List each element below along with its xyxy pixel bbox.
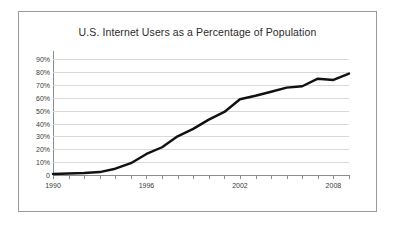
x-tick-mark — [193, 176, 194, 179]
x-tick-label: 2002 — [232, 182, 248, 189]
x-tick-mark — [115, 176, 116, 179]
y-tick-label: 40% — [36, 120, 50, 127]
line-series — [53, 53, 349, 175]
y-tick-label: 50% — [36, 107, 50, 114]
x-tick-mark — [209, 176, 210, 179]
x-tick-label: 1996 — [139, 182, 155, 189]
x-tick-label: 2008 — [326, 182, 342, 189]
x-tick-mark — [256, 176, 257, 179]
x-tick-mark — [302, 176, 303, 179]
chart-title: U.S. Internet Users as a Percentage of P… — [19, 26, 376, 38]
y-tick-label: 30% — [36, 133, 50, 140]
x-axis-line — [53, 175, 350, 176]
x-tick-mark — [333, 176, 334, 179]
y-tick-label: 60% — [36, 94, 50, 101]
x-tick-mark — [287, 176, 288, 179]
x-tick-mark — [84, 176, 85, 179]
plot-area — [53, 53, 349, 175]
x-tick-mark — [69, 176, 70, 179]
x-tick-mark — [53, 176, 54, 179]
y-tick-label: 80% — [36, 69, 50, 76]
y-tick-label: 10% — [36, 159, 50, 166]
x-tick-mark — [178, 176, 179, 179]
x-tick-mark — [100, 176, 101, 179]
x-tick-mark — [146, 176, 147, 179]
x-tick-mark — [131, 176, 132, 179]
x-tick-mark — [318, 176, 319, 179]
y-tick-label: 70% — [36, 82, 50, 89]
x-tick-mark — [349, 176, 350, 179]
x-tick-mark — [240, 176, 241, 179]
x-tick-mark — [224, 176, 225, 179]
y-tick-label: 0 — [46, 172, 50, 179]
y-tick-label: 90% — [36, 56, 50, 63]
chart-figure: U.S. Internet Users as a Percentage of P… — [18, 11, 377, 212]
x-tick-mark — [271, 176, 272, 179]
y-axis-tick-labels: 90%80%70%60%50%40%30%20%10%0 — [19, 53, 50, 175]
x-tick-label: 1990 — [45, 182, 61, 189]
y-tick-label: 20% — [36, 146, 50, 153]
x-tick-mark — [162, 176, 163, 179]
